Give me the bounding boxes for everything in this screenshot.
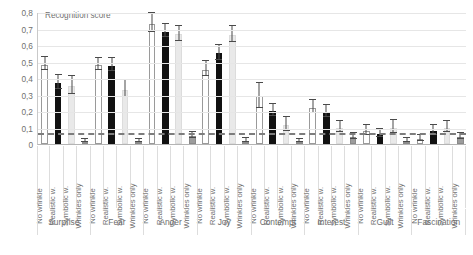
emotion-group-cell: Surprise: [37, 209, 91, 235]
bar-group-item: [135, 12, 142, 144]
bar-group-item: [390, 12, 397, 144]
y-tick-label: 0,5: [0, 59, 33, 67]
bar-group-item: [82, 12, 89, 144]
error-bar-cap-top: [242, 137, 249, 138]
bar: [256, 96, 263, 144]
error-bar-cap-top: [41, 56, 48, 57]
bar: [417, 139, 424, 144]
error-bar-cap-bottom: [108, 70, 115, 71]
gridline: [38, 79, 466, 80]
error-bar-cap-top: [443, 120, 450, 121]
error-bar-cap-top: [215, 44, 222, 45]
bar-group-item: [122, 12, 129, 144]
emotion-group-cell: Fascination: [412, 209, 466, 235]
error-bar-cap-bottom: [162, 36, 169, 37]
chance-level-line: [38, 133, 466, 135]
bar-group-item: [336, 12, 343, 144]
error-bar-cap-bottom: [202, 75, 209, 76]
error-bar-cap-top: [430, 124, 437, 125]
gridline: [38, 30, 466, 31]
bar-group-item: [41, 12, 48, 144]
y-tick-label: 0,3: [0, 92, 33, 100]
error-bar: [178, 26, 179, 41]
error-bar-cap-top: [309, 99, 316, 100]
error-bar-cap-top: [55, 74, 62, 75]
error-bar-cap-top: [229, 25, 236, 26]
emotion-group-label: Joy: [218, 217, 231, 227]
bar-group-item: [229, 12, 236, 144]
error-bar-cap-top: [283, 116, 290, 117]
error-bar-cap-top: [269, 103, 276, 104]
error-bar-cap-bottom: [296, 141, 303, 142]
gridline: [38, 46, 466, 47]
emotion-group-cell: Guilt: [359, 209, 413, 235]
error-bar-cap-top: [135, 138, 142, 139]
bar-group-item: [175, 12, 182, 144]
emotion-group-cell: Anger: [144, 209, 198, 235]
bar: [189, 136, 196, 144]
bar: [350, 137, 357, 144]
bar-group-item: [417, 12, 424, 144]
bar: [135, 142, 142, 144]
error-bar-cap-bottom: [229, 41, 236, 42]
error-bar-cap-top: [189, 131, 196, 132]
error-bar-cap-bottom: [336, 131, 343, 132]
error-bar-cap-top: [175, 25, 182, 26]
error-bar: [218, 45, 219, 60]
bar: [403, 142, 410, 144]
error-bar: [205, 61, 206, 76]
y-tick-label: 0,4: [0, 75, 33, 83]
plot-area: [37, 13, 466, 145]
bar: [390, 128, 397, 145]
error-bar-cap-bottom: [443, 131, 450, 132]
bar-group-item: [68, 12, 75, 144]
error-bar-cap-top: [296, 138, 303, 139]
bar-group-item: [283, 12, 290, 144]
error-bar-cap-bottom: [323, 116, 330, 117]
bar-group-item: [430, 12, 437, 144]
gridline: [38, 129, 466, 130]
bar-group-item: [457, 12, 464, 144]
bar-group-item: [162, 12, 169, 144]
bar-group-item: [269, 12, 276, 144]
bar: [95, 65, 102, 144]
error-bar-cap-top: [95, 57, 102, 58]
emotion-group-label: Contempt: [260, 217, 296, 227]
bar: [269, 111, 276, 144]
y-tick-label: 0,6: [0, 42, 33, 50]
bar-group-item: [108, 12, 115, 144]
bar-group-item: [55, 12, 62, 144]
error-bar-cap-bottom: [68, 93, 75, 94]
error-bar-cap-bottom: [55, 88, 62, 89]
error-bar: [58, 75, 59, 90]
error-bar-cap-top: [162, 23, 169, 24]
error-bar-cap-bottom: [256, 107, 263, 108]
bar: [162, 32, 169, 144]
error-bar-cap-bottom: [148, 31, 155, 32]
gridline: [38, 63, 466, 64]
emotion-group-cell: Joy: [198, 209, 252, 235]
emotion-group-band: SurpriseFearAngerJoyContemptInterestGuil…: [37, 209, 466, 239]
error-bar-cap-bottom: [376, 136, 383, 137]
y-tick-label: 0,2: [0, 108, 33, 116]
error-bar-cap-top: [256, 82, 263, 83]
bar-group-item: [444, 12, 451, 144]
bar: [296, 142, 303, 144]
emotion-group-label: Interest: [317, 217, 345, 227]
bar: [444, 128, 451, 145]
bar: [242, 142, 249, 144]
error-bar-cap-top: [403, 137, 410, 138]
bar-group-item: [296, 12, 303, 144]
bar: [336, 128, 343, 145]
bar-group-item: [403, 12, 410, 144]
error-bar-cap-bottom: [41, 69, 48, 70]
error-bar-cap-top: [108, 57, 115, 58]
error-bar-cap-bottom: [215, 59, 222, 60]
y-tick-label: 0,1: [0, 125, 33, 133]
bar: [108, 66, 115, 144]
bar: [41, 65, 48, 144]
error-bar: [232, 26, 233, 43]
y-tick-label: 0,8: [0, 9, 33, 17]
error-bar-cap-bottom: [350, 138, 357, 139]
emotion-group-label: Fascination: [417, 217, 460, 227]
